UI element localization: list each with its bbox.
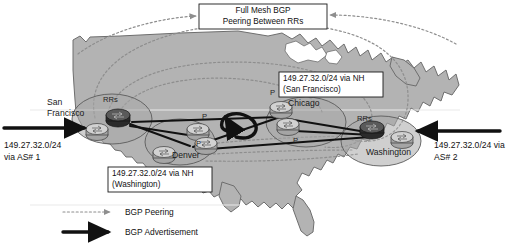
callout-full-mesh-line1: Full Mesh BGP [235, 6, 291, 15]
label-san-francisco-line1: San [47, 97, 63, 107]
router-sf-edge [86, 124, 108, 141]
label-san-francisco-line2: Francisco [47, 108, 84, 118]
peer-curve-callout-right [330, 15, 456, 44]
legend-item-bgp-peering: BGP Peering [63, 207, 174, 217]
callout-full-mesh-line2: Peering Between RRs [223, 17, 304, 26]
callout-chicago-line1: 149.27.32.0/24 via NH [283, 74, 365, 83]
label-washington: Washington [366, 147, 411, 157]
legend-item-bgp-advertisement: BGP Advertisement [63, 227, 199, 237]
callout-full-mesh: Full Mesh BGP Peering Between RRs [199, 4, 327, 29]
legend-peering-label: BGP Peering [125, 207, 174, 217]
legend-advertisement-label: BGP Advertisement [125, 227, 199, 237]
network-diagram: RRs P P P P RRs San Francisco Denver Chi… [0, 0, 523, 248]
label-denver: Denver [172, 150, 200, 160]
left-advertisement-line1: 149.27.32.0/24 [4, 140, 62, 150]
callout-denver-next-hop: 149.27.32.0/24 via NH (Washington) [108, 167, 212, 192]
right-advertisement-line1: 149.27.32.0/24 via [434, 140, 505, 150]
router-washington-edge [391, 132, 413, 149]
tag-washington-rrs: RRs [357, 114, 372, 123]
callout-chicago-next-hop: 149.27.32.0/24 via NH (San Francisco) [279, 72, 383, 97]
right-advertisement: 149.27.32.0/24 via AS# 2 [418, 131, 505, 162]
router-sf-rr [106, 109, 130, 127]
tag-sf-rrs: RRs [103, 95, 118, 104]
tag-denver-p-upper: P [202, 112, 207, 121]
tag-chicago-p-upper: P [270, 88, 275, 97]
router-chicago-p-lower [277, 119, 299, 136]
right-advertisement-line2: AS# 2 [434, 152, 458, 162]
tag-denver-p-lower: P [196, 139, 201, 148]
callout-denver-line1: 149.27.32.0/24 via NH [112, 169, 194, 178]
callout-denver-line2: (Washington) [112, 180, 161, 189]
left-advertisement-line2: via AS# 1 [4, 152, 41, 162]
label-chicago: Chicago [288, 98, 320, 108]
tag-chicago-p-lower: P [293, 136, 298, 145]
router-washington-rr [360, 121, 384, 139]
callout-chicago-line2: (San Francisco) [283, 85, 341, 94]
left-advertisement: 149.27.32.0/24 via AS# 1 [4, 128, 84, 162]
legend: BGP Peering BGP Advertisement [63, 207, 199, 237]
